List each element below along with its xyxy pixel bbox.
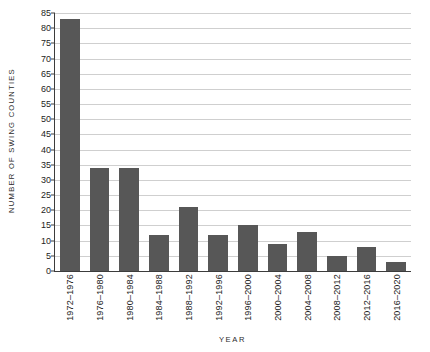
x-tick-label: 2016–2020 (381, 272, 411, 330)
gridline (55, 43, 411, 44)
x-tick-label-text: 1976–1980 (95, 274, 105, 321)
x-tick-label-text: 1988–1992 (184, 274, 194, 321)
bar (208, 235, 228, 271)
x-tick-label-text: 2012–2016 (362, 274, 372, 321)
bar (179, 207, 199, 271)
x-axis-ticks: 1972–19761976–19801980–19841984–19881988… (55, 272, 411, 330)
bar (238, 225, 258, 271)
y-tick-label: 80 (5, 24, 51, 33)
y-tick-label: 0 (5, 267, 51, 276)
bar (268, 244, 288, 271)
x-axis-title: YEAR (55, 335, 410, 344)
gridline (55, 28, 411, 29)
x-tick-label: 1976–1980 (85, 272, 115, 330)
x-tick-label: 2012–2016 (352, 272, 382, 330)
y-tick-label: 85 (5, 9, 51, 18)
gridline (55, 150, 411, 151)
gridline (55, 134, 411, 135)
y-tick-label: 65 (5, 69, 51, 78)
x-tick-label: 1980–1984 (114, 272, 144, 330)
bar (119, 168, 139, 271)
y-axis-ticks: 0510152025303540455055606570758085 (0, 13, 51, 272)
x-tick-label-text: 1992–1996 (214, 274, 224, 321)
y-tick-label: 45 (5, 130, 51, 139)
x-tick-label: 2000–2004 (263, 272, 293, 330)
bar (357, 247, 377, 271)
x-tick-label: 1992–1996 (203, 272, 233, 330)
gridline (55, 13, 411, 14)
bar (149, 235, 169, 271)
y-tick-label: 10 (5, 236, 51, 245)
y-tick-label: 30 (5, 175, 51, 184)
bar (327, 256, 347, 271)
y-tick-label: 25 (5, 191, 51, 200)
gridline (55, 74, 411, 75)
gridline (55, 104, 411, 105)
x-tick-label-text: 2016–2020 (392, 274, 402, 321)
bar (297, 232, 317, 271)
x-tick-label-text: 1996–2000 (243, 274, 253, 321)
y-tick-label: 40 (5, 145, 51, 154)
y-tick-label: 55 (5, 100, 51, 109)
x-tick-label: 1972–1976 (55, 272, 85, 330)
bar (386, 262, 406, 271)
y-tick-label: 15 (5, 221, 51, 230)
x-tick-label-text: 2004–2008 (303, 274, 313, 321)
gridline (55, 119, 411, 120)
y-tick-label: 75 (5, 39, 51, 48)
x-tick-label: 2008–2012 (322, 272, 352, 330)
y-tick-label: 50 (5, 115, 51, 124)
bar (90, 168, 110, 271)
x-tick-label-text: 2008–2012 (332, 274, 342, 321)
plot-area (55, 13, 411, 271)
y-tick-label: 5 (5, 251, 51, 260)
y-tick-label: 20 (5, 206, 51, 215)
gridline (55, 59, 411, 60)
bar-chart: NUMBER OF SWING COUNTIES 051015202530354… (0, 0, 430, 352)
x-tick-label: 1988–1992 (174, 272, 204, 330)
x-tick-label-text: 1980–1984 (125, 274, 135, 321)
x-tick-label-text: 1984–1988 (154, 274, 164, 321)
x-tick-label: 2004–2008 (292, 272, 322, 330)
bar (60, 19, 80, 271)
x-tick-label-text: 1972–1976 (65, 274, 75, 321)
gridline (55, 89, 411, 90)
x-tick-label: 1996–2000 (233, 272, 263, 330)
y-tick-label: 60 (5, 84, 51, 93)
gridline (55, 165, 411, 166)
y-tick-label: 35 (5, 160, 51, 169)
x-tick-label: 1984–1988 (144, 272, 174, 330)
x-tick-label-text: 2000–2004 (273, 274, 283, 321)
y-tick-label: 70 (5, 54, 51, 63)
